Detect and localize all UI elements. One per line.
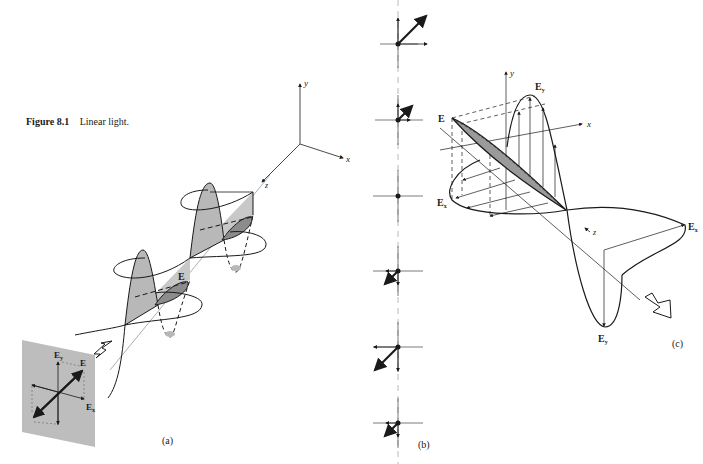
axis-x-label-c: x (586, 119, 591, 129)
panel-b-label: (b) (418, 439, 430, 451)
panel-c-label: (c) (672, 338, 683, 350)
field-e-label: E (178, 271, 185, 282)
propagation-arrow (94, 341, 112, 358)
figure-canvas: y x z E (0, 0, 703, 464)
c-e-label: E (438, 113, 445, 124)
panel-b: (b) (373, 0, 430, 464)
panel-a-label: (a) (162, 435, 173, 447)
axis-y-label-c: y (509, 68, 514, 78)
plane-e-label: E (80, 358, 86, 368)
frame-3 (373, 170, 423, 222)
axes-triad-a: y x z (262, 78, 350, 190)
frame-4 (373, 246, 423, 296)
frame-5 (373, 322, 423, 372)
c-ey-bottom-label: Ey (598, 333, 608, 345)
axis-z-label: z (264, 181, 269, 190)
c-ey-top-label: Ey (535, 81, 545, 93)
frame-1 (380, 16, 427, 68)
axis-y-label: y (303, 78, 308, 88)
axis-z-label-c: z (592, 228, 597, 237)
frame-2 (375, 95, 423, 145)
c-ex-right-label: Ex (688, 221, 698, 233)
panel-c: y x z (437, 68, 698, 350)
panel-a: y x z E (22, 78, 350, 447)
c-ex-left-label: Ex (437, 197, 447, 209)
propagation-arrow-c (645, 293, 671, 318)
axis-x-label: x (345, 154, 350, 164)
frame-6 (373, 398, 423, 448)
